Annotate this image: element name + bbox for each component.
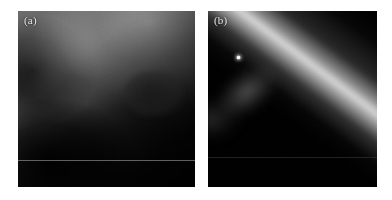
figure-container: (a) (b) <box>0 0 392 200</box>
panel-a-horizontal-scanline <box>18 160 195 161</box>
panel-b-image: (b) <box>208 11 377 187</box>
panel-a-dark-blob <box>124 71 184 117</box>
panel-b-streak-tail <box>208 95 252 155</box>
panel-a-label: (a) <box>24 14 37 26</box>
panel-a-image: (a) <box>18 11 195 187</box>
panel-b-label: (b) <box>214 14 227 26</box>
panel-b-horizontal-scanline <box>208 157 377 158</box>
